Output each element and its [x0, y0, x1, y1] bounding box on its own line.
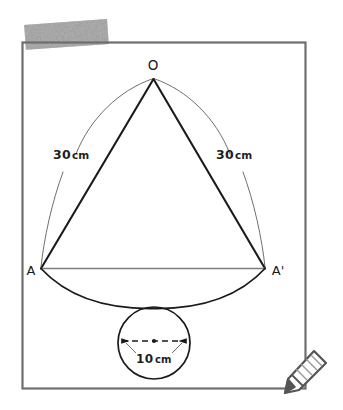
diameter-unit: cm: [155, 354, 171, 365]
diameter-label-leader-right: [172, 343, 182, 353]
left-sector-arc: [76, 79, 152, 154]
slant-right-value: 30: [216, 147, 234, 162]
slant-right-unit: cm: [235, 149, 252, 161]
slant-left-unit: cm: [72, 149, 89, 161]
slant-line-right: [154, 79, 266, 269]
slant-line-left: [41, 79, 154, 269]
geometry-figure: O A A' 30 cm 30 cm 10 cm: [0, 0, 343, 410]
marker-highlight-stroke: [24, 19, 109, 50]
diameter-value: 10: [136, 352, 154, 366]
vertex-label-a-prime: A': [272, 263, 284, 278]
base-arc: [41, 269, 265, 309]
slant-left-value: 30: [53, 147, 71, 162]
circle-center-dot: [152, 339, 156, 343]
diagram-canvas: O A A' 30 cm 30 cm 10 cm: [0, 0, 343, 410]
vertex-label-a: A: [27, 263, 36, 278]
right-sector-arc: [155, 79, 230, 154]
left-sector-leader: [41, 172, 63, 267]
diameter-label-leader-left: [126, 343, 136, 353]
right-sector-leader: [243, 172, 265, 267]
apex-label-o: O: [148, 57, 159, 73]
diagram-border-frame: [23, 43, 306, 389]
